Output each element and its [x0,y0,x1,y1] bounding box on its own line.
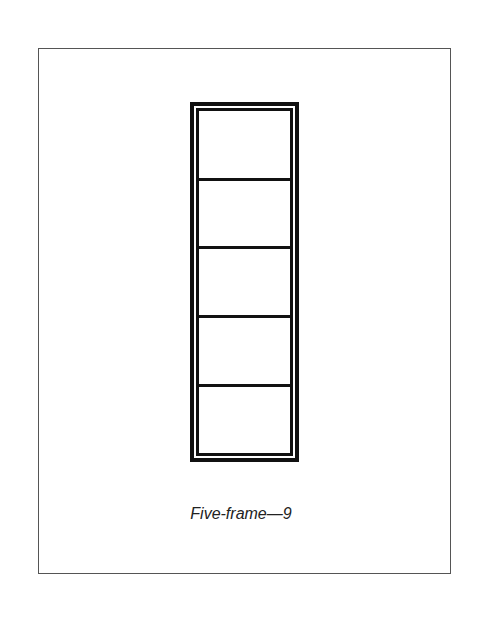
pane-divider-4 [196,384,293,387]
pane-divider-1 [196,178,293,181]
inner-frame [196,108,293,456]
pane-divider-2 [196,246,293,249]
pane-divider-3 [196,315,293,318]
figure-caption: Five-frame—9 [0,505,482,523]
